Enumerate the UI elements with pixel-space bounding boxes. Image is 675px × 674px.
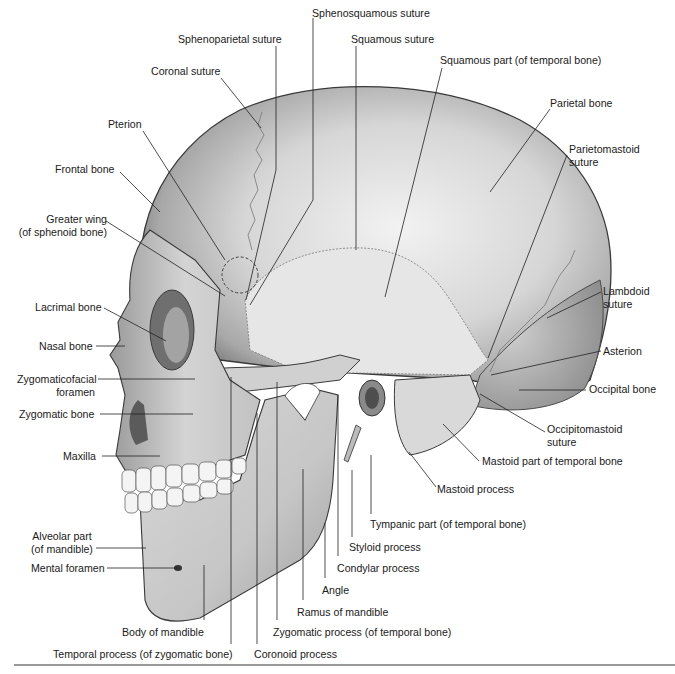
label-mastoid-part-temporal: Mastoid part of temporal bone (482, 455, 623, 468)
label-text: suture (569, 156, 640, 169)
label-ramus-of-mandible: Ramus of mandible (297, 606, 388, 619)
label-text: Condylar process (337, 562, 419, 575)
label-text: Sphenosquamous suture (312, 7, 430, 20)
label-text: Temporal process (of zygomatic bone) (53, 648, 233, 661)
label-text: Alveolar part (22, 530, 102, 543)
label-frontal-bone: Frontal bone (55, 163, 114, 176)
label-text: Maxilla (63, 450, 96, 463)
leader-frontal-bone (120, 172, 160, 212)
label-text: Parietal bone (550, 97, 612, 110)
label-greater-wing-sphenoid: Greater wing(of sphenoid bone) (14, 213, 107, 238)
label-parietal-bone: Parietal bone (550, 97, 612, 110)
leader-mastoid-process (409, 452, 436, 487)
label-text: Mastoid process (437, 483, 514, 496)
label-styloid-process: Styloid process (349, 541, 421, 554)
label-text: Zygomatic process (of temporal bone) (273, 626, 451, 639)
label-text: Squamous suture (351, 33, 434, 46)
label-zygomatic-bone: Zygomatic bone (19, 408, 94, 421)
label-text: Sphenoparietal suture (178, 33, 282, 46)
label-text: Nasal bone (39, 340, 93, 353)
label-text: Angle (322, 584, 349, 597)
label-body-of-mandible: Body of mandible (122, 626, 204, 639)
label-sphenoparietal-suture: Sphenoparietal suture (178, 33, 282, 46)
label-text: (of sphenoid bone) (14, 226, 107, 239)
label-text: Lacrimal bone (35, 301, 102, 314)
label-text: Occipitomastoid (547, 423, 622, 436)
label-text: Frontal bone (55, 163, 114, 176)
label-mastoid-process: Mastoid process (437, 483, 514, 496)
label-text: Zygomatic bone (19, 408, 94, 421)
label-angle: Angle (322, 584, 349, 597)
label-parietomastoid-suture: Parietomastoidsuture (569, 143, 640, 168)
label-text: Tympanic part (of temporal bone) (370, 518, 526, 531)
bottom-rule (14, 664, 675, 666)
styloid-process-shape (344, 425, 361, 462)
label-text: Zygomaticofacial (17, 373, 95, 386)
label-text: Greater wing (14, 213, 107, 226)
label-sphenosquamous-suture: Sphenosquamous suture (312, 7, 430, 20)
label-text: Lambdoid (603, 285, 650, 298)
label-condylar-process: Condylar process (337, 562, 419, 575)
label-text: Coronal suture (151, 65, 221, 78)
label-pterion: Pterion (108, 118, 142, 131)
label-text: suture (603, 298, 650, 311)
label-squamous-suture: Squamous suture (351, 33, 434, 46)
label-lacrimal-bone: Lacrimal bone (35, 301, 102, 314)
label-maxilla: Maxilla (63, 450, 96, 463)
label-lambdoid-suture: Lambdoidsuture (603, 285, 650, 310)
label-coronal-suture: Coronal suture (151, 65, 221, 78)
label-tympanic-part-temporal: Tympanic part (of temporal bone) (370, 518, 526, 531)
label-text: Asterion (603, 345, 642, 358)
label-temporal-process-zygomatic: Temporal process (of zygomatic bone) (53, 648, 233, 661)
label-text: Body of mandible (122, 626, 204, 639)
label-zygomaticofacial-foramen: Zygomaticofacialforamen (17, 373, 95, 398)
label-text: Occipital bone (589, 383, 656, 396)
label-text: Styloid process (349, 541, 421, 554)
label-text: suture (547, 436, 622, 449)
label-text: Pterion (108, 118, 142, 131)
label-text: Parietomastoid (569, 143, 640, 156)
mastoid-process-shape (394, 375, 480, 455)
label-asterion: Asterion (603, 345, 642, 358)
label-nasal-bone: Nasal bone (39, 340, 93, 353)
label-text: Coronoid process (254, 648, 337, 661)
label-squamous-part-temporal: Squamous part (of temporal bone) (440, 54, 601, 67)
label-coronoid-process: Coronoid process (254, 648, 337, 661)
label-text: Mental foramen (31, 562, 105, 575)
label-occipitomastoid-suture: Occipitomastoidsuture (547, 423, 622, 448)
label-occipital-bone: Occipital bone (589, 383, 656, 396)
label-text: (of mandible) (22, 543, 102, 556)
label-zygomatic-process-temporal: Zygomatic process (of temporal bone) (273, 626, 451, 639)
label-text: foramen (17, 386, 95, 399)
label-mental-foramen: Mental foramen (31, 562, 105, 575)
label-alveolar-part-mandible: Alveolar part(of mandible) (22, 530, 102, 555)
label-text: Squamous part (of temporal bone) (440, 54, 601, 67)
label-text: Ramus of mandible (297, 606, 388, 619)
label-text: Mastoid part of temporal bone (482, 455, 623, 468)
